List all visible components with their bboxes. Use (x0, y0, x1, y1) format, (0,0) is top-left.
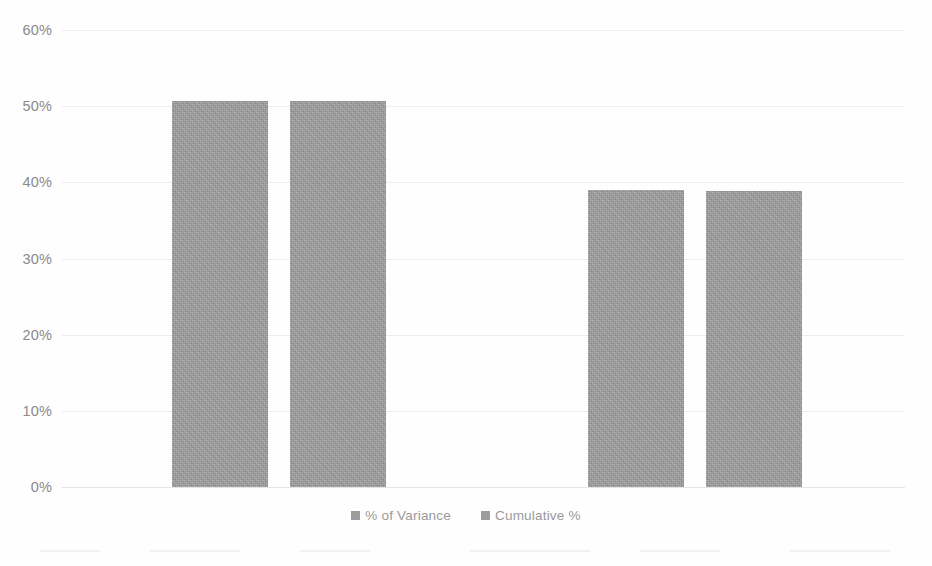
chart-legend: % of VarianceCumulative % (0, 508, 932, 523)
bar (706, 191, 802, 487)
chart-container: 60%50%40%30%20%10%0% % of VarianceCumula… (0, 0, 932, 566)
legend-item[interactable]: Cumulative % (481, 508, 581, 523)
y-axis-tick-label: 40% (6, 174, 52, 190)
y-axis-tick-label: 10% (6, 403, 52, 419)
y-axis-tick-label: 20% (6, 327, 52, 343)
legend-item[interactable]: % of Variance (351, 508, 451, 523)
y-axis-tick-label: 60% (6, 22, 52, 38)
legend-item-label: Cumulative % (495, 508, 581, 523)
clipped-title-artifact (0, 0, 932, 9)
plot-area (62, 30, 905, 487)
bar (588, 190, 684, 487)
legend-swatch-icon (481, 511, 490, 520)
gridline-60 (62, 30, 905, 31)
bar (290, 101, 386, 487)
scan-noise-artifact (0, 548, 932, 566)
legend-swatch-icon (351, 511, 360, 520)
y-axis-tick-label: 0% (6, 479, 52, 495)
y-axis-tick-label: 50% (6, 98, 52, 114)
legend-item-label: % of Variance (365, 508, 451, 523)
bar (172, 101, 268, 487)
gridline-0 (62, 487, 905, 488)
y-axis-tick-label: 30% (6, 251, 52, 267)
